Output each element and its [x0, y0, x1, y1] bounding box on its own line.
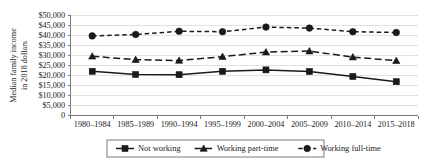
x-tick-label: 1985–1989 [117, 120, 154, 129]
data-point-marker [350, 28, 357, 35]
data-point-marker [219, 28, 226, 35]
y-tick-label: $40,000 [38, 31, 65, 40]
y-tick-label: $50,000 [38, 11, 65, 20]
y-axis: $50,000$45,000$40,000$35,000$30,000$25,0… [38, 11, 70, 120]
y-axis-title-line: in 2018 dollars [20, 41, 29, 90]
x-tick-label: 1980–1984 [74, 120, 111, 129]
data-point-marker [132, 31, 139, 38]
y-tick-label: $30,000 [38, 51, 65, 60]
x-tick-label: 2010–2014 [334, 120, 371, 129]
legend-label: Not working [138, 144, 181, 153]
legend-label: Working full-time [320, 144, 381, 153]
legend-label: Working part-time [217, 144, 279, 153]
y-axis-title-line: Median family income [9, 28, 18, 103]
data-point-marker [393, 57, 400, 63]
data-point-marker [176, 28, 183, 35]
y-tick-label: $25,000 [38, 61, 65, 70]
y-tick-label: $5,000 [42, 101, 65, 110]
data-point-marker [306, 69, 312, 75]
data-point-marker [350, 74, 356, 80]
data-point-marker [220, 68, 226, 74]
data-point-marker [176, 72, 182, 78]
y-tick-label: $35,000 [38, 41, 65, 50]
chart-container: $50,000$45,000$40,000$35,000$30,000$25,0… [0, 0, 430, 166]
x-axis: 1980–19841985–19891990–19941995–19992000… [71, 116, 419, 130]
data-point-marker [263, 24, 270, 31]
data-point-marker [393, 29, 400, 36]
y-tick-label: $15,000 [38, 81, 65, 90]
data-point-marker [89, 33, 96, 40]
x-tick-label: 2015–2018 [378, 120, 415, 129]
y-axis-title: Median family incomein 2018 dollars [9, 28, 29, 103]
data-point-marker [393, 79, 399, 85]
chart-legend: Not workingWorking part-timeWorking full… [107, 140, 381, 157]
y-tick-label: $10,000 [38, 91, 65, 100]
y-tick-label: 0 [61, 111, 65, 120]
x-tick-label: 2000–2004 [248, 120, 285, 129]
data-point-marker [263, 67, 269, 73]
data-point-marker [133, 72, 139, 78]
x-tick-label: 2005–2009 [291, 120, 328, 129]
data-point-marker [89, 68, 95, 74]
x-tick-label: 1995–1999 [204, 120, 241, 129]
x-tick-label: 1990–1994 [161, 120, 198, 129]
data-point-marker [306, 25, 313, 32]
legend-swatch-marker [304, 145, 311, 152]
y-tick-label: $20,000 [38, 71, 65, 80]
legend-swatch-marker [122, 146, 128, 152]
y-tick-label: $45,000 [38, 21, 65, 30]
income-line-chart: $50,000$45,000$40,000$35,000$30,000$25,0… [0, 0, 430, 166]
